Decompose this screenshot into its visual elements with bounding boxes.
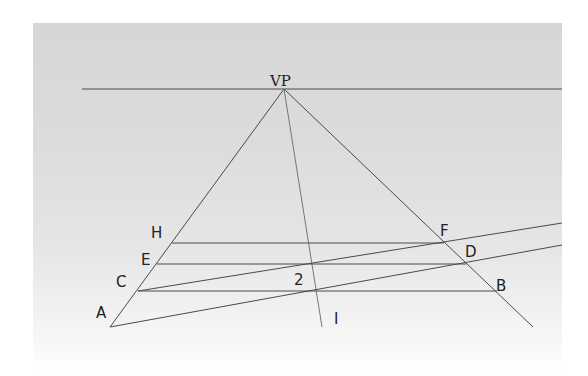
label-f: F xyxy=(440,222,449,240)
label-vp: VP xyxy=(269,72,291,90)
label-i: I xyxy=(334,310,338,328)
perspective-diagram: VP A C E H F D B 2 I xyxy=(0,0,588,376)
label-h: H xyxy=(151,224,162,242)
label-d: D xyxy=(465,243,477,261)
label-b: B xyxy=(496,277,506,295)
label-e: E xyxy=(141,251,150,269)
label-two: 2 xyxy=(294,271,304,289)
label-a: A xyxy=(96,304,107,322)
label-c: C xyxy=(116,273,126,291)
